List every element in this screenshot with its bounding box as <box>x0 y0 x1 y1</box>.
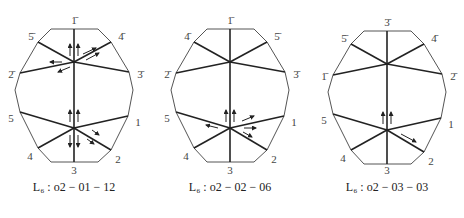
vertex-label-bottom: 3 <box>71 164 77 176</box>
vertex-label-mid-right: 3̄ <box>293 68 301 80</box>
edge <box>387 130 424 152</box>
edge <box>387 118 441 130</box>
vertex-label-lower-left: 5 <box>321 114 327 126</box>
edge <box>176 62 230 73</box>
vertex-label-lower-right: 1 <box>291 116 297 128</box>
diagram-caption: L₆ : o2 − 02 − 06 <box>189 180 271 194</box>
vertex-label-upper-right: 4̄ <box>118 30 126 42</box>
diagram-caption: L₆ : o2 − 03 − 03 <box>346 180 428 194</box>
vertex-label-mid-right: 2̄ <box>450 70 458 82</box>
edge <box>230 62 285 72</box>
diagram-caption: L₆ : o2 − 01 − 12 <box>33 180 115 194</box>
arrow-left-icon <box>206 125 218 128</box>
vertex-label-upper-right: 4̄ <box>431 32 439 44</box>
arrow-icon <box>242 116 254 121</box>
arrow-icon <box>92 130 99 135</box>
vertex-label-bottom-left: 4 <box>340 152 346 164</box>
edge <box>230 128 267 150</box>
vertex-label-bottom-right: 2 <box>115 153 121 165</box>
diagram-canvas: 1̄ 5̄ 4̄ 2̄ 3̄ 5 1 4 2 3 L₆ : o2 − 01 − … <box>0 0 464 218</box>
vertex-label-upper-left: 4̄ <box>184 30 192 42</box>
edge <box>74 42 111 62</box>
edge <box>194 128 230 148</box>
vertex-label-top: 1̄ <box>227 14 235 26</box>
edge <box>351 130 387 150</box>
vertex-label-lower-right: 1 <box>448 118 454 130</box>
vertex-label-upper-right: 5̄ <box>274 30 282 42</box>
vertex-label-upper-left: 5̄ <box>28 30 36 42</box>
edge <box>20 112 74 128</box>
edge <box>230 42 267 62</box>
vertex-label-mid-left: 2̄ <box>8 68 16 80</box>
arrow-icon <box>401 134 416 142</box>
edge <box>333 114 387 130</box>
diagram-2: 1̄ 4̄ 5̄ 2̄ 3̄ 5 1 4 2 3 L₆ : o2 − 02 − … <box>164 14 301 194</box>
vertex-label-bottom: 3 <box>384 164 390 176</box>
edge <box>74 128 111 150</box>
vertex-label-top: 1̄ <box>71 14 79 26</box>
vertex-label-bottom: 3 <box>227 164 233 176</box>
vertex-label-mid-right: 3̄ <box>137 68 145 80</box>
vertex-label-lower-left: 5 <box>8 112 14 124</box>
edge <box>351 44 387 64</box>
edge <box>194 42 230 62</box>
edge <box>333 64 387 75</box>
edge <box>74 62 129 72</box>
vertex-label-upper-left: 5̄ <box>341 32 349 44</box>
diagram-3: 3̄ 5̄ 4̄ 1̄ 2̄ 5 1 4 2 3 L₆ : o2 − 03 − … <box>321 16 458 194</box>
edge <box>387 64 442 74</box>
edge <box>20 62 74 73</box>
vertex-label-top: 3̄ <box>384 16 392 28</box>
arrow-icon <box>58 67 70 72</box>
vertex-label-bottom-right: 2 <box>428 155 434 167</box>
vertex-label-bottom-left: 4 <box>183 150 189 162</box>
vertex-label-mid-left: 1̄ <box>321 70 329 82</box>
edge <box>38 128 74 148</box>
edge <box>230 116 284 128</box>
edge <box>38 42 74 62</box>
edge <box>387 44 424 64</box>
vertex-label-mid-left: 2̄ <box>164 68 172 80</box>
vertex-label-lower-right: 1 <box>135 116 141 128</box>
vertex-label-bottom-left: 4 <box>27 150 33 162</box>
edge <box>176 112 230 128</box>
vertex-label-lower-left: 5 <box>164 112 170 124</box>
edge <box>74 116 128 128</box>
diagram-1: 1̄ 5̄ 4̄ 2̄ 3̄ 5 1 4 2 3 L₆ : o2 − 01 − … <box>8 14 145 194</box>
vertex-label-bottom-right: 2 <box>271 153 277 165</box>
